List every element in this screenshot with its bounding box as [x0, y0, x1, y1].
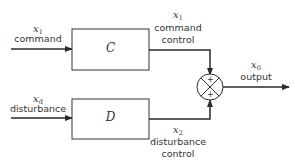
command-control-label-2: control — [150, 35, 206, 45]
plus-sign-top: + — [207, 76, 214, 84]
disturbance-control-label-1: disturbance — [146, 137, 210, 147]
disturbance-control-label-2: control — [146, 149, 210, 159]
output-label: output — [234, 72, 278, 82]
block-d-label: D — [72, 110, 149, 124]
command-input-label: command — [10, 34, 66, 44]
command-control-label-1: command — [150, 23, 206, 33]
disturbance-control-line — [149, 100, 210, 119]
plus-sign-bottom: + — [207, 91, 214, 99]
command-control-line — [149, 50, 210, 75]
block-c-label: C — [72, 41, 149, 55]
var-subscript: 1 — [179, 14, 183, 22]
disturbance-input-label: disturbance — [6, 104, 70, 114]
